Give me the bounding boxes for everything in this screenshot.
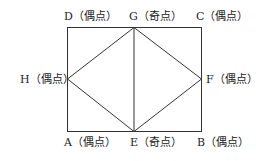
edge-h-e (68, 79, 135, 132)
point-label-b: B（偶点） (197, 137, 249, 149)
point-label-d: D（偶点） (64, 11, 117, 23)
edge-f-e (134, 79, 202, 132)
point-label-h: H（偶点） (20, 74, 74, 86)
edge-g-f (134, 28, 202, 80)
edge-g-h (68, 28, 135, 80)
point-label-e: E（奇点） (130, 137, 182, 149)
point-label-g: G（奇点） (129, 11, 182, 23)
point-label-f: F（偶点） (206, 74, 256, 86)
point-label-c: C（偶点） (196, 11, 248, 23)
point-label-a: A（偶点） (64, 137, 116, 149)
